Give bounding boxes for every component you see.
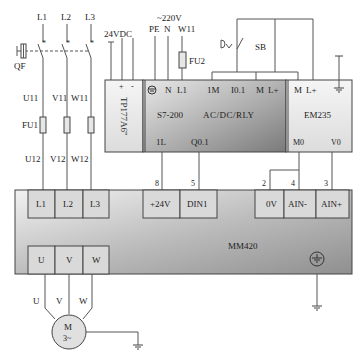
inv-terminal-L1: L1 bbox=[36, 199, 46, 209]
motor-wire-W: W bbox=[79, 296, 88, 306]
inverter-name: MM420 bbox=[228, 241, 258, 251]
hmi-supply-label: 24VDC bbox=[104, 29, 132, 39]
inv-terminal-AIN-minus: AIN- bbox=[288, 199, 307, 209]
breaker-icon bbox=[17, 44, 26, 58]
wire-N: N bbox=[164, 24, 171, 34]
svg-text:*: * bbox=[90, 39, 94, 48]
label-L2: L2 bbox=[61, 12, 71, 22]
fuse-fu1: FU1 bbox=[22, 117, 94, 133]
inv-terminal-AIN-plus: AIN+ bbox=[321, 199, 342, 209]
motor-phase: 3~ bbox=[63, 334, 72, 343]
wire-number-2: 2 bbox=[262, 179, 266, 188]
wire-number-4: 4 bbox=[291, 179, 295, 188]
wire-U11: U11 bbox=[23, 93, 38, 103]
wire-V12: V12 bbox=[50, 154, 66, 164]
hmi-terminal-minus: - bbox=[131, 82, 134, 91]
wire-W12: W12 bbox=[71, 154, 89, 164]
plc-model: S7-200 bbox=[157, 110, 184, 120]
svg-text:*: * bbox=[66, 39, 70, 48]
inv-terminal-DIN1: DIN1 bbox=[187, 199, 208, 209]
inv-terminal-L3: L3 bbox=[90, 199, 100, 209]
hmi-name: TP177A6" bbox=[119, 97, 129, 136]
wire-number-8: 8 bbox=[155, 179, 159, 188]
em-terminal-M0: M0 bbox=[293, 138, 304, 147]
wire-U12: U12 bbox=[25, 154, 41, 164]
wiring-diagram: L1 L2 L3 * * * QF U11 V11 W11 bbox=[0, 0, 362, 364]
plc-terminal-I0.1: I0.1 bbox=[231, 85, 245, 95]
hmi-panel: + - TP177A6" bbox=[105, 80, 143, 152]
plc-terminal-1L: 1L bbox=[156, 137, 166, 147]
plc-terminal-M: M bbox=[256, 85, 264, 95]
inv-terminal-0V: 0V bbox=[266, 199, 278, 209]
plc-terminal-N: N bbox=[165, 85, 172, 95]
plc-terminal-L+: L+ bbox=[268, 85, 279, 95]
plc-supply-voltage: ~220V bbox=[157, 13, 182, 23]
wire-number-3: 3 bbox=[324, 179, 328, 188]
inv-terminal-W: W bbox=[92, 255, 101, 265]
label-L3: L3 bbox=[85, 12, 95, 22]
inverter-mm420: L1 L2 L3 +24V DIN1 0V AIN- AIN+ MM420 U … bbox=[15, 190, 352, 274]
em-terminal-V0: V0 bbox=[331, 138, 341, 147]
wire-number-5: 5 bbox=[191, 179, 195, 188]
motor-wire-V: V bbox=[56, 296, 63, 306]
motor-wire-U: U bbox=[33, 296, 40, 306]
inv-terminal-V: V bbox=[66, 255, 73, 265]
ground-icon bbox=[133, 345, 143, 349]
em-name: EM235 bbox=[304, 110, 332, 120]
inv-terminal-U: U bbox=[38, 255, 45, 265]
motor-label: M bbox=[64, 322, 72, 332]
plc-terminal-1M: 1M bbox=[207, 85, 220, 95]
breaker-label: QF bbox=[14, 61, 26, 71]
plc-type: AC/DC/RLY bbox=[203, 110, 255, 120]
fuse-fu2 bbox=[179, 52, 186, 68]
label-L1: L1 bbox=[37, 12, 47, 22]
hmi-terminal-plus: + bbox=[119, 82, 124, 91]
wire-PE: PE bbox=[149, 24, 160, 34]
push-button-icon bbox=[221, 38, 243, 49]
plc-terminal-L1: L1 bbox=[177, 85, 187, 95]
em-terminal-M: M bbox=[294, 85, 302, 95]
fuse2-label: FU2 bbox=[189, 56, 205, 66]
switch-label: SB bbox=[255, 42, 266, 52]
wire-W11-supply: W11 bbox=[178, 24, 195, 34]
wire-W11: W11 bbox=[71, 93, 88, 103]
inv-terminal-24V: +24V bbox=[150, 199, 171, 209]
fuse1-label: FU1 bbox=[22, 120, 38, 130]
motor-icon: M 3~ bbox=[52, 315, 86, 349]
plc-s7-200: N L1 1M I0.1 M L+ S7-200 AC/DC/RLY 1L Q0… bbox=[143, 80, 286, 152]
plc-terminal-Q0.1: Q0.1 bbox=[191, 137, 209, 147]
analog-module-em235: M L+ EM235 M0 V0 bbox=[286, 56, 352, 152]
svg-text:*: * bbox=[42, 39, 46, 48]
inv-terminal-L2: L2 bbox=[63, 199, 73, 209]
wire-V11: V11 bbox=[52, 93, 67, 103]
em-terminal-L+: L+ bbox=[306, 85, 317, 95]
ground-icon bbox=[312, 306, 322, 310]
